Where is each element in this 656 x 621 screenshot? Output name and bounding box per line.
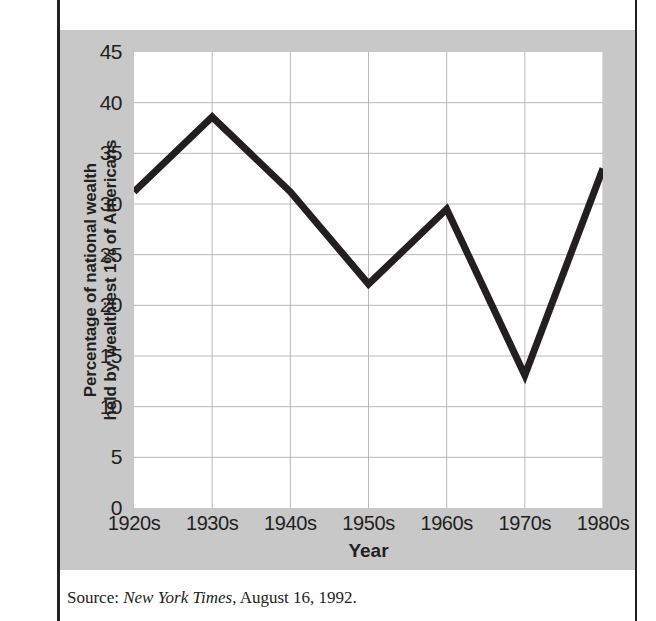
x-axis-tick-label: 1930s	[186, 512, 239, 535]
source-note: Source: New York Times, August 16, 1992.	[67, 588, 357, 608]
source-band: Source: New York Times, August 16, 1992.	[57, 570, 637, 621]
source-publication: New York Times	[123, 588, 232, 607]
vertical-gridlines	[212, 52, 603, 508]
y-axis-tick-label: 5	[111, 445, 122, 469]
y-axis-tick-label: 35	[100, 141, 122, 165]
x-axis-tick-label: 1950s	[342, 512, 395, 535]
y-axis-tick-label: 45	[100, 40, 122, 64]
y-axis-tick-label: 15	[100, 344, 122, 368]
chart-panel: Percentage of national wealth held by we…	[57, 30, 637, 570]
x-axis-tick-labels: 1920s1930s1940s1950s1960s1970s1980s	[134, 512, 603, 542]
y-axis-tick-label: 40	[100, 91, 122, 115]
x-axis-title: Year	[134, 540, 603, 562]
figure-caption: est levels since the 1920s.	[67, 0, 298, 5]
x-axis-tick-label: 1970s	[499, 512, 552, 535]
y-axis-tick-label: 20	[100, 293, 122, 317]
y-axis-tick-label: 10	[100, 395, 122, 419]
caption-band: est levels since the 1920s.	[57, 0, 637, 30]
plot-svg	[134, 52, 603, 508]
x-axis-tick-label: 1940s	[264, 512, 317, 535]
x-axis-tick-label: 1960s	[420, 512, 473, 535]
source-date: , August 16, 1992.	[232, 588, 357, 607]
y-axis-tick-labels: 051015202530354045	[60, 52, 128, 508]
x-axis-tick-label: 1920s	[108, 512, 161, 535]
plot-area	[134, 52, 603, 508]
y-axis-tick-label: 30	[100, 192, 122, 216]
x-axis-tick-label: 1980s	[577, 512, 630, 535]
wealth-share-figure: est levels since the 1920s. Percentage o…	[0, 0, 656, 621]
source-label: Source:	[67, 588, 123, 607]
y-axis-tick-label: 25	[100, 243, 122, 267]
